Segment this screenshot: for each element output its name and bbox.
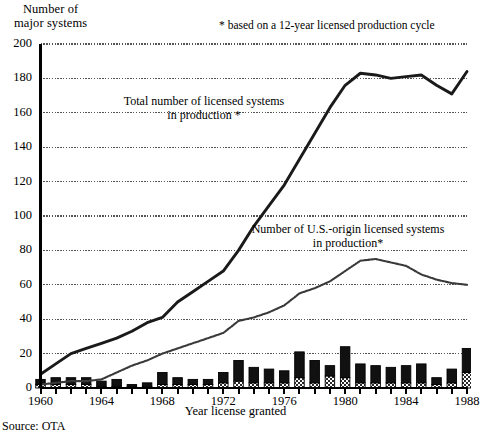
y-tick-label: 160 <box>0 106 32 118</box>
y-tick-label: 80 <box>0 243 32 255</box>
annotation-us-series: Number of U.S.-origin licensed systems i… <box>232 222 464 250</box>
y-tick-label: 120 <box>0 175 32 187</box>
y-tick-label: 140 <box>0 140 32 152</box>
bar-series <box>36 347 471 388</box>
y-tick-label: 60 <box>0 278 32 290</box>
y-axis-title: Number of major systems <box>14 2 87 30</box>
y-tick-label: 100 <box>0 209 32 221</box>
annotation-total-series: Total number of licensed systems in prod… <box>104 94 304 122</box>
y-tick-label: 200 <box>0 37 32 49</box>
x-axis-title: Year license granted <box>0 404 471 419</box>
chart-footnote: * based on a 12-year licensed production… <box>219 19 435 31</box>
source-note: Source: OTA <box>2 419 65 434</box>
y-tick-label: 0 <box>0 381 32 393</box>
gridlines <box>41 44 468 354</box>
y-tick-label: 20 <box>0 347 32 359</box>
y-tick-label: 40 <box>0 312 32 324</box>
y-tick-label: 180 <box>0 71 32 83</box>
